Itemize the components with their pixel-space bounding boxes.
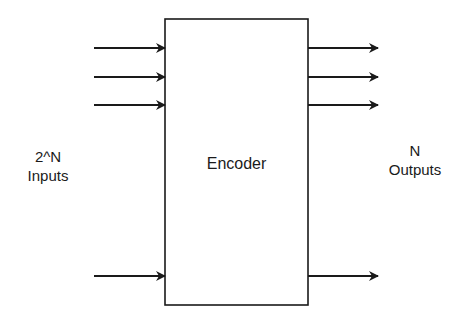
outputs-label-line2: Outputs xyxy=(380,160,450,179)
output-arrows xyxy=(308,48,378,276)
inputs-label-line2: Inputs xyxy=(18,166,78,185)
outputs-label-line1: N xyxy=(380,141,450,160)
input-arrows xyxy=(94,48,165,276)
outputs-label: N Outputs xyxy=(380,141,450,179)
inputs-label-line1: 2^N xyxy=(18,147,78,166)
inputs-label: 2^N Inputs xyxy=(18,147,78,185)
encoder-label: Encoder xyxy=(165,154,308,173)
